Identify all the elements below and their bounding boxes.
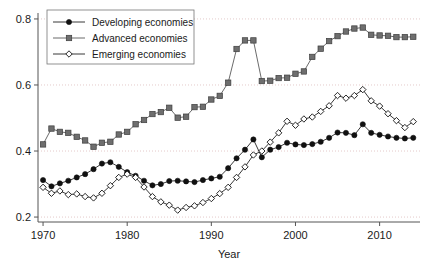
marker-open-diamond xyxy=(250,152,256,158)
marker-open-diamond xyxy=(309,114,315,120)
marker-open-diamond xyxy=(191,203,197,209)
marker-filled-square xyxy=(158,109,163,114)
marker-filled-circle xyxy=(175,178,180,183)
marker-open-diamond xyxy=(158,199,164,205)
y-tick-label: 0.2 xyxy=(16,211,31,223)
marker-filled-square xyxy=(310,54,315,59)
marker-filled-circle xyxy=(411,135,416,140)
marker-filled-square xyxy=(124,129,129,134)
marker-filled-square xyxy=(200,104,205,109)
marker-open-diamond xyxy=(82,193,88,199)
marker-filled-square xyxy=(74,134,79,139)
marker-filled-square xyxy=(318,46,323,51)
marker-open-diamond xyxy=(166,202,172,208)
marker-filled-circle xyxy=(327,135,332,140)
marker-filled-circle xyxy=(66,178,71,183)
marker-filled-square xyxy=(183,114,188,119)
marker-filled-circle xyxy=(385,134,390,139)
line-chart: 19701980199020002010 0.20.40.60.8 Develo… xyxy=(0,0,431,263)
marker-filled-square xyxy=(150,111,155,116)
marker-open-diamond xyxy=(40,184,46,190)
marker-filled-square xyxy=(251,38,256,43)
marker-filled-square xyxy=(276,75,281,80)
marker-filled-circle xyxy=(226,166,231,171)
marker-filled-square xyxy=(116,132,121,137)
marker-filled-square xyxy=(385,33,390,38)
marker-filled-circle xyxy=(66,19,71,24)
marker-open-diamond xyxy=(217,190,223,196)
marker-filled-circle xyxy=(200,177,205,182)
legend-label-2: Emerging economies xyxy=(92,49,186,60)
marker-filled-square xyxy=(394,34,399,39)
marker-filled-square xyxy=(49,126,54,131)
y-tick-label: 0.8 xyxy=(16,13,31,25)
marker-filled-circle xyxy=(402,136,407,141)
marker-filled-circle xyxy=(49,184,54,189)
legend-label-1: Advanced economies xyxy=(92,33,188,44)
marker-filled-square xyxy=(66,35,71,40)
marker-filled-circle xyxy=(108,160,113,165)
marker-open-diamond xyxy=(57,188,63,194)
marker-filled-circle xyxy=(183,179,188,184)
x-tick-label: 2000 xyxy=(283,229,307,241)
marker-filled-square xyxy=(66,130,71,135)
marker-open-diamond xyxy=(48,190,54,196)
marker-filled-square xyxy=(368,32,373,37)
marker-open-diamond xyxy=(301,116,307,122)
marker-open-diamond xyxy=(410,118,416,124)
y-tick-label: 0.6 xyxy=(16,79,31,91)
marker-open-diamond xyxy=(284,118,290,124)
x-tick-label: 1970 xyxy=(31,229,55,241)
marker-filled-circle xyxy=(369,130,374,135)
marker-filled-square xyxy=(217,93,222,98)
marker-filled-circle xyxy=(335,130,340,135)
marker-filled-circle xyxy=(116,164,121,169)
marker-filled-square xyxy=(225,80,230,85)
marker-open-diamond xyxy=(183,204,189,210)
marker-filled-square xyxy=(343,29,348,34)
marker-filled-circle xyxy=(301,142,306,147)
marker-filled-circle xyxy=(40,177,45,182)
chart-container: 19701980199020002010 0.20.40.60.8 Develo… xyxy=(0,0,431,263)
marker-filled-square xyxy=(91,144,96,149)
marker-filled-square xyxy=(326,38,331,43)
x-tick-labels: 19701980199020002010 xyxy=(31,229,392,241)
marker-filled-square xyxy=(352,26,357,31)
marker-filled-circle xyxy=(141,178,146,183)
marker-open-diamond xyxy=(90,195,96,201)
marker-filled-circle xyxy=(217,174,222,179)
marker-filled-circle xyxy=(394,135,399,140)
marker-open-diamond xyxy=(74,191,80,197)
marker-filled-circle xyxy=(310,141,315,146)
marker-filled-square xyxy=(167,105,172,110)
marker-open-diamond xyxy=(360,86,366,92)
marker-filled-circle xyxy=(167,178,172,183)
legend-label-0: Developing economies xyxy=(92,17,193,28)
marker-filled-square xyxy=(377,33,382,38)
marker-filled-square xyxy=(141,117,146,122)
x-tick-label: 2010 xyxy=(367,229,391,241)
marker-filled-circle xyxy=(99,161,104,166)
marker-filled-square xyxy=(268,78,273,83)
marker-filled-square xyxy=(192,104,197,109)
marker-filled-square xyxy=(242,38,247,43)
marker-filled-square xyxy=(40,142,45,147)
marker-filled-square xyxy=(82,138,87,143)
marker-filled-circle xyxy=(352,133,357,138)
marker-filled-square xyxy=(57,129,62,134)
marker-filled-circle xyxy=(192,179,197,184)
marker-open-diamond xyxy=(200,199,206,205)
x-tick-label: 1990 xyxy=(199,229,223,241)
y-tick-label: 0.4 xyxy=(16,145,31,157)
marker-filled-circle xyxy=(276,144,281,149)
marker-filled-square xyxy=(284,75,289,80)
marker-filled-circle xyxy=(91,167,96,172)
marker-filled-circle xyxy=(242,147,247,152)
x-axis-title: Year xyxy=(218,248,241,260)
marker-open-diamond xyxy=(318,108,324,114)
marker-filled-circle xyxy=(209,176,214,181)
marker-filled-circle xyxy=(268,147,273,152)
marker-open-diamond xyxy=(208,195,214,201)
marker-filled-square xyxy=(175,115,180,120)
marker-filled-square xyxy=(402,34,407,39)
